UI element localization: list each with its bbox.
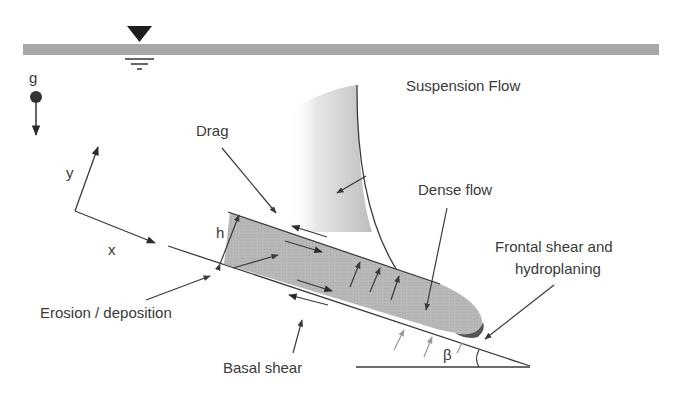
frontal-shear-leader bbox=[485, 285, 554, 339]
frontal-shear-label-line1: Frontal shear and bbox=[495, 238, 613, 255]
turbidity-current-diagram: g y x β h bbox=[0, 0, 678, 401]
drag-label: Drag bbox=[196, 122, 229, 139]
axis-x-label: x bbox=[108, 241, 116, 258]
basal-shear-label: Basal shear bbox=[223, 359, 302, 376]
axis-y-label: y bbox=[66, 164, 74, 181]
gravity-arrow-icon bbox=[30, 91, 42, 135]
frontal-shear-label-line2: hydroplaning bbox=[515, 260, 601, 277]
slope-angle-label: β bbox=[443, 346, 452, 363]
erosion-deposition-label: Erosion / deposition bbox=[40, 304, 172, 321]
erosion-leader bbox=[146, 276, 210, 300]
water-surface bbox=[23, 44, 659, 55]
dense-flow-label: Dense flow bbox=[418, 181, 492, 198]
suspension-flow-label: Suspension Flow bbox=[406, 77, 520, 94]
gravity-label: g bbox=[29, 69, 37, 86]
hydroplaning-arrows bbox=[394, 330, 462, 357]
drag-leader bbox=[222, 148, 276, 213]
basal-shear-leader bbox=[293, 320, 302, 353]
height-label: h bbox=[216, 224, 224, 241]
coordinate-axes bbox=[75, 147, 155, 243]
angle-arc bbox=[477, 350, 480, 367]
